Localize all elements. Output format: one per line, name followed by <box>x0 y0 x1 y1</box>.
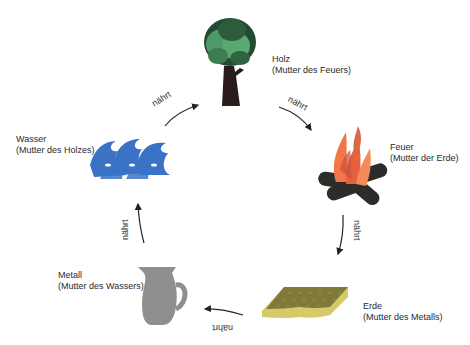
arrow-erde-metall <box>205 309 243 315</box>
label-erde-metall: nährt <box>212 323 233 333</box>
cycle-arrows <box>0 0 470 345</box>
label-metall-wasser: nährt <box>120 219 130 240</box>
arrow-feuer-erde <box>338 215 343 254</box>
arrow-wasser-holz <box>165 105 198 126</box>
label-feuer-erde: nährt <box>352 220 362 241</box>
arrow-holz-feuer <box>279 107 311 130</box>
arrow-metall-wasser <box>138 204 144 243</box>
